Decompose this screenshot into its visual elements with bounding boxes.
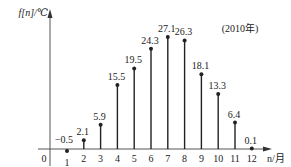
y-axis-label: f[n]/℃ — [18, 7, 48, 18]
x-tick-label: 8 — [182, 153, 187, 164]
x-tick-label: 3 — [98, 153, 103, 164]
stem-marker — [115, 83, 119, 87]
stem-marker — [166, 35, 170, 39]
value-label: −0.5 — [55, 134, 73, 145]
x-tick-label: 6 — [149, 153, 154, 164]
stem-marker — [132, 66, 136, 70]
value-label: 2.1 — [77, 126, 90, 137]
value-label: 19.5 — [124, 54, 142, 65]
stem-marker — [233, 121, 237, 125]
x-tick-label: 4 — [115, 153, 120, 164]
annotation-year: (2010年) — [222, 22, 259, 35]
stem-marker — [183, 38, 187, 42]
stem-marker — [199, 72, 203, 76]
value-label: 18.1 — [192, 60, 210, 71]
x-tick-label: 5 — [132, 153, 137, 164]
value-label: 0.1 — [245, 135, 258, 146]
stem-marker — [82, 138, 86, 142]
value-label: 13.3 — [208, 80, 226, 91]
y-axis-arrow-icon — [48, 9, 53, 18]
value-label: 15.5 — [108, 71, 126, 82]
value-label: 5.9 — [93, 111, 106, 122]
stem-marker — [216, 92, 220, 96]
value-label: 6.4 — [228, 109, 241, 120]
x-tick-label: 2 — [81, 153, 86, 164]
value-label: 27.1 — [158, 23, 176, 34]
x-tick-label: 11 — [230, 153, 240, 164]
x-tick-label: 1 — [65, 157, 70, 167]
x-tick-label: 12 — [247, 153, 257, 164]
stem-chart: f[n]/℃ (2010年) 0 n/月 −0.512.125.9315.541… — [0, 0, 291, 167]
stem-series: −0.512.125.9315.5419.5524.3627.1726.3818… — [55, 23, 257, 167]
value-label: 24.3 — [141, 35, 159, 46]
stem-marker — [250, 147, 254, 151]
x-tick-label: 10 — [213, 153, 223, 164]
value-label: 26.3 — [175, 26, 193, 37]
stem-marker — [149, 47, 153, 51]
x-tick-label: 9 — [199, 153, 204, 164]
x-axis-label: n/月 — [267, 153, 285, 164]
x-axis-arrow-icon — [263, 147, 272, 152]
x-tick-label: 7 — [165, 153, 170, 164]
origin-label: 0 — [42, 153, 47, 164]
stem-marker — [65, 149, 69, 153]
stem-marker — [99, 123, 103, 127]
